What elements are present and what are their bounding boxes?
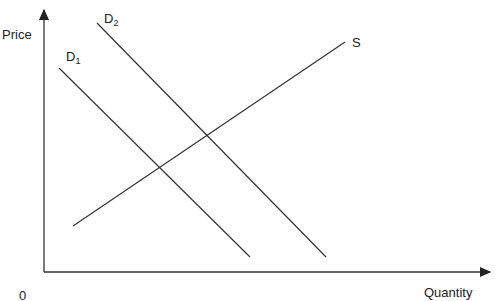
d2-label: D2 bbox=[104, 11, 118, 28]
demand-curve-d1 bbox=[59, 68, 250, 257]
d1-label: D1 bbox=[66, 49, 80, 66]
supply-curve bbox=[73, 42, 345, 226]
supply-label: S bbox=[352, 35, 361, 50]
y-axis-label: Price bbox=[2, 27, 32, 42]
diagram-canvas bbox=[0, 0, 499, 301]
x-axis-label: Quantity bbox=[424, 285, 472, 300]
origin-label: 0 bbox=[19, 288, 26, 301]
